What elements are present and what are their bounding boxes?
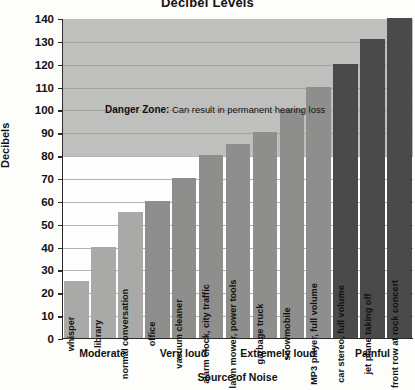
bar-cell: library — [90, 19, 117, 338]
bar-category-label: office — [147, 322, 157, 347]
bar — [145, 201, 170, 338]
y-axis-tick-label: 10 — [14, 310, 54, 322]
danger-zone-annotation: Danger Zone: Can result in permanent hea… — [105, 104, 325, 115]
bar-category-label: garbage truck — [255, 304, 265, 365]
bar-cell: snowmobile — [278, 19, 305, 338]
bar-cell: office — [144, 19, 171, 338]
bar-category-label: vacuum cleaner — [174, 299, 184, 368]
bar-cell: jet plane taking off — [359, 19, 386, 338]
y-axis-tick-label: 50 — [14, 219, 54, 231]
bar-category-label: lawn mower, power tools — [228, 280, 238, 389]
y-axis-tick-label: 90 — [14, 127, 54, 139]
bar-series: whisperlibrarynormal conversationofficev… — [63, 19, 413, 338]
y-axis-tick-label: 40 — [14, 242, 54, 254]
bar-category-label: snowmobile — [282, 307, 292, 360]
plot-area: Danger Zone: Can result in permanent hea… — [62, 19, 413, 339]
y-axis-tick-label: 80 — [14, 150, 54, 162]
y-axis-tick-label: 60 — [14, 196, 54, 208]
bar-category-label: car stereo, full volume — [336, 285, 346, 383]
bar-category-label: jet plane taking off — [363, 293, 373, 374]
y-axis-tick-label: 110 — [14, 82, 54, 94]
y-axis-tick-mark — [58, 339, 63, 340]
bar-cell: car stereo, full volume — [332, 19, 359, 338]
danger-zone-bold-text: Danger Zone: — [105, 104, 169, 115]
bar-cell: garbage truck — [251, 19, 278, 338]
bar-category-label: front row at rock concert — [390, 280, 400, 388]
y-axis-tick-label: 140 — [14, 13, 54, 25]
bar-cell: lawn mower, power tools — [225, 19, 252, 338]
bar-cell: whisper — [63, 19, 90, 338]
bar-category-label: MP3 player, full volume — [309, 283, 319, 385]
bar-cell: MP3 player, full volume — [305, 19, 332, 338]
bar-cell: alarm clock, city traffic — [198, 19, 225, 338]
y-axis-tick-label: 0 — [14, 333, 54, 345]
y-axis-tick-label: 20 — [14, 287, 54, 299]
y-axis-title: Decibels — [0, 123, 11, 168]
y-axis-tick-label: 30 — [14, 264, 54, 276]
decibel-levels-chart: Decibel Levels Decibels Danger Zone: Can… — [0, 0, 415, 390]
bar-category-label: library — [93, 320, 103, 348]
y-axis-tick-label: 100 — [14, 104, 54, 116]
y-axis-tick-label: 70 — [14, 173, 54, 185]
bar-cell: front row at rock concert — [386, 19, 413, 338]
y-axis-tick-label: 130 — [14, 36, 54, 48]
danger-zone-text: Can result in permanent hearing loss — [169, 104, 325, 115]
bar-category-label: alarm clock, city traffic — [201, 284, 211, 384]
chart-title: Decibel Levels — [0, 0, 415, 10]
bar-category-label: whisper — [66, 317, 76, 352]
bar-category-label: normal conversation — [120, 289, 130, 379]
bar-cell: normal conversation — [117, 19, 144, 338]
y-axis-tick-label: 120 — [14, 59, 54, 71]
bar-cell: vacuum cleaner — [171, 19, 198, 338]
bar — [280, 109, 305, 338]
